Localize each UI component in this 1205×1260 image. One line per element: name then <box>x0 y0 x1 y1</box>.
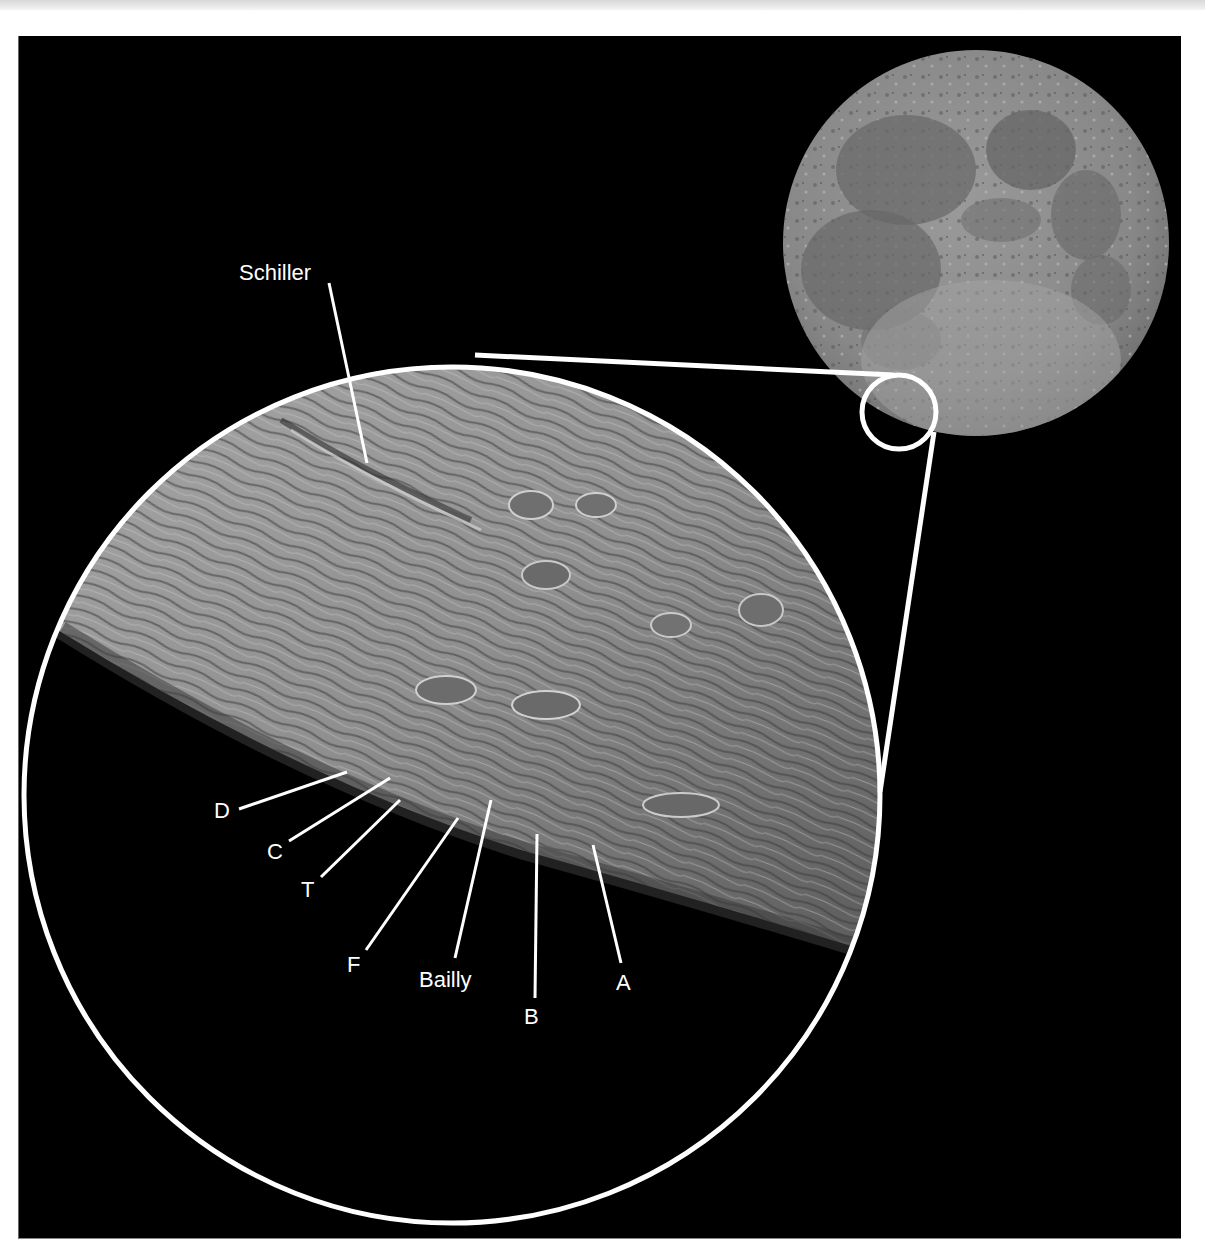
full-moon <box>781 48 1171 440</box>
label-c: C <box>267 841 283 863</box>
label-schiller: Schiller <box>239 262 311 284</box>
pointer-b <box>535 834 537 998</box>
label-f: F <box>347 954 360 976</box>
label-t: T <box>301 879 314 901</box>
scene-graphic <box>19 36 1181 1238</box>
label-bailly: Bailly <box>419 969 472 991</box>
image-panel: Schiller D C T F Bailly B A <box>18 36 1181 1239</box>
label-d: D <box>214 800 230 822</box>
top-border-strip <box>0 0 1205 10</box>
connector-line-right <box>880 432 934 792</box>
label-b: B <box>524 1006 539 1028</box>
label-a: A <box>616 972 631 994</box>
